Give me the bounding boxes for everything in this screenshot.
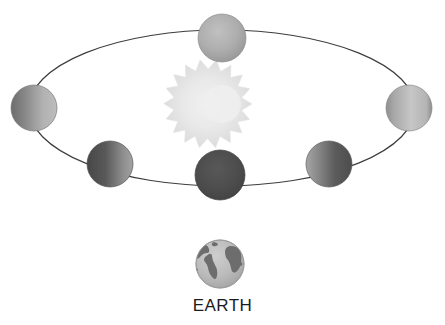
moon-phase-left bbox=[11, 85, 57, 131]
sun-star bbox=[164, 60, 252, 148]
moon-phase-top bbox=[198, 14, 246, 62]
moon-phase-lower-left bbox=[87, 141, 133, 187]
moon-phases-diagram bbox=[0, 0, 445, 325]
earth-globe bbox=[191, 240, 244, 288]
earth-label: EARTH bbox=[0, 296, 445, 316]
moon-phase-bottom bbox=[195, 150, 245, 200]
moon-phase-lower-right bbox=[306, 141, 352, 187]
moon-phase-right bbox=[386, 85, 432, 131]
